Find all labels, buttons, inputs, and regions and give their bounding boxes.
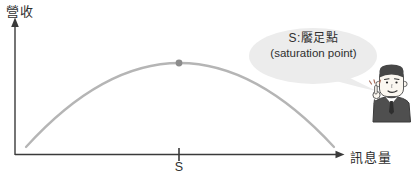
speech-bubble-text: S:饜足點 (saturation point)	[251, 31, 376, 61]
speech-bubble-line1: S:饜足點	[251, 31, 376, 46]
eye-left	[386, 81, 388, 83]
x-axis-arrow-icon	[336, 151, 345, 159]
eye-right	[395, 81, 397, 83]
businessman-illustration	[370, 65, 411, 123]
y-axis-label: 營收	[6, 1, 34, 20]
speech-bubble-line2: (saturation point)	[251, 46, 376, 61]
chart-canvas: 營收 訊息量 S S:饜足點 (saturation point)	[0, 0, 415, 179]
x-axis-label: 訊息量	[350, 147, 392, 166]
s-tick-label: S	[171, 160, 187, 174]
index-finger	[375, 86, 378, 95]
saturation-point-dot	[176, 60, 183, 67]
